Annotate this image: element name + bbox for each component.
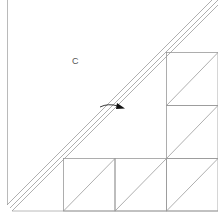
label-c: C [72, 56, 79, 66]
square-diagonal [167, 106, 219, 159]
square-diagonal [167, 53, 219, 106]
quilt-diagram: C [0, 0, 218, 215]
square-diagonal [115, 159, 167, 212]
square-diagonal [64, 159, 116, 212]
diagonal-line-outer-1 [7, 0, 212, 205]
diagonal-line-outer-2 [10, 0, 218, 208]
square-diagonal [167, 159, 219, 212]
